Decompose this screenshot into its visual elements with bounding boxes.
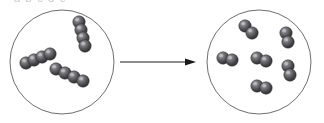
atom-sphere (284, 69, 296, 81)
atom-sphere (282, 36, 294, 48)
atom-highlight (79, 34, 83, 37)
atom-sphere (226, 54, 238, 66)
atom-highlight (253, 54, 257, 57)
atom-highlight (228, 56, 232, 59)
atom-highlight (284, 62, 288, 65)
clipped-caption-strip: a b c d e (0, 0, 324, 6)
atom-sphere (77, 75, 89, 87)
atom-sphere (246, 27, 258, 39)
atom-highlight (282, 29, 286, 32)
atom-highlight (248, 29, 252, 32)
atom-highlight (70, 73, 74, 76)
arrow-layer (120, 59, 196, 66)
atom-sphere (260, 55, 272, 67)
atom-highlight (61, 69, 65, 72)
atom-sphere (79, 40, 91, 52)
atom-highlight (286, 71, 290, 74)
atom-sphere (260, 82, 272, 94)
atom-highlight (22, 59, 26, 62)
reaction-canvas (0, 0, 324, 123)
clipped-caption-text: a b c d e (14, 0, 67, 4)
atom-highlight (46, 50, 50, 53)
atom-highlight (75, 18, 79, 21)
atom-sphere (44, 48, 56, 60)
atom-highlight (79, 77, 83, 80)
atom-highlight (262, 84, 266, 87)
reaction-arrow-head (185, 59, 196, 66)
atom-highlight (262, 57, 266, 60)
atom-highlight (52, 65, 56, 68)
atom-highlight (38, 53, 42, 56)
atom-highlight (253, 82, 257, 85)
atom-highlight (77, 26, 81, 29)
atom-highlight (241, 22, 245, 25)
atom-highlight (81, 42, 85, 45)
atom-highlight (219, 54, 223, 57)
atom-highlight (284, 38, 288, 41)
reaction-diagram: a b c d e (0, 0, 324, 123)
atom-highlight (30, 56, 34, 59)
